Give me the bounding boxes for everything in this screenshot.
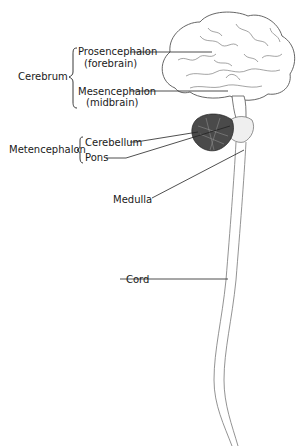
label-midbrain: (midbrain) [86,97,138,108]
cerebrum-brace [69,48,77,108]
brainstem-drawing [232,96,246,118]
label-metencephalon: Metencephalon [9,144,86,155]
brain-spinal-cord-illustration [0,0,301,448]
label-cord: Cord [126,274,149,285]
label-prosencephalon: Prosencephalon [78,46,157,57]
spinal-cord-drawing [214,142,246,446]
label-cerebellum: Cerebellum [85,137,142,148]
label-cerebrum: Cerebrum [18,71,68,82]
cns-diagram: Cerebrum Prosencephalon (forebrain) Mese… [0,0,301,448]
label-forebrain: (forebrain) [84,58,137,69]
label-medulla: Medulla [113,194,152,205]
label-mesencephalon: Mesencephalon [78,86,156,97]
cerebellum-drawing [192,114,234,151]
label-pons: Pons [85,152,108,163]
